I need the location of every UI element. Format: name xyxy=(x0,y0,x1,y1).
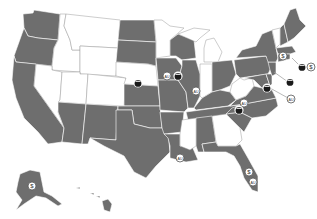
dollar-icon[interactable]: $ xyxy=(28,182,36,190)
dollar-icon[interactable]: $ xyxy=(279,52,287,60)
state-kansas[interactable] xyxy=(124,84,160,106)
state-colorado[interactable] xyxy=(86,74,126,106)
state-washington[interactable] xyxy=(23,10,60,40)
us-choropleth-map: AUAUAUAU$$AU$AU$ xyxy=(0,0,317,219)
state-new-mexico[interactable] xyxy=(82,104,118,144)
states-layer xyxy=(12,8,306,212)
pot-icon[interactable] xyxy=(297,62,306,71)
label-icon[interactable]: AU xyxy=(249,178,257,186)
state-wyoming[interactable] xyxy=(80,46,118,76)
state-utah[interactable] xyxy=(58,72,88,104)
state-maine[interactable] xyxy=(284,8,306,42)
svg-text:AU: AU xyxy=(194,90,199,94)
pot-icon[interactable] xyxy=(262,83,271,92)
dollar-icon[interactable]: $ xyxy=(307,63,315,71)
pot-icon[interactable] xyxy=(133,78,142,87)
svg-text:AU: AU xyxy=(178,157,183,161)
pot-icon[interactable] xyxy=(173,71,182,80)
svg-text:AU: AU xyxy=(242,102,247,106)
pot-icon[interactable] xyxy=(234,105,243,114)
label-icon[interactable]: AU xyxy=(176,154,184,162)
svg-text:AU: AU xyxy=(289,98,294,102)
label-icon[interactable]: AU xyxy=(287,95,295,103)
svg-text:AU: AU xyxy=(251,181,256,185)
state-hawaii[interactable] xyxy=(76,187,112,212)
state-mississippi[interactable] xyxy=(180,118,196,150)
state-south-dakota[interactable] xyxy=(116,40,156,66)
state-north-dakota[interactable] xyxy=(118,20,156,42)
label-icon[interactable]: AU xyxy=(192,87,200,95)
label-icon[interactable]: AU xyxy=(163,72,171,80)
pot-icon[interactable] xyxy=(285,77,294,86)
state-alaska[interactable] xyxy=(16,170,62,210)
svg-text:AU: AU xyxy=(165,75,170,79)
label-icon[interactable]: AU xyxy=(240,99,248,107)
state-montana[interactable] xyxy=(64,14,120,50)
dollar-icon[interactable]: $ xyxy=(245,168,253,176)
